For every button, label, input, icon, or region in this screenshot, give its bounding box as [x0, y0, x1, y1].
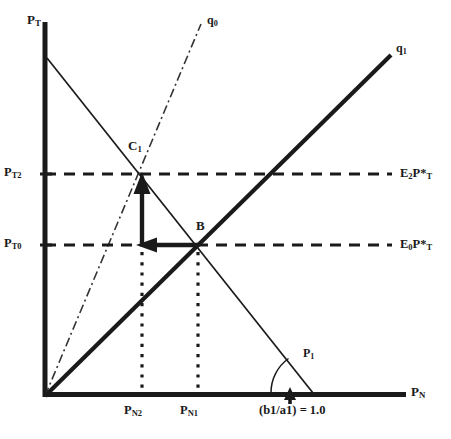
- economics-diagram: PT PN PT2 PT0 PN2 PN1 E2P*T E0P*T q0 q1 …: [0, 0, 451, 439]
- point-label-c1: C1: [128, 139, 142, 154]
- x-tick-label-pn2: PN2: [124, 404, 142, 417]
- x-axis-label: PN: [411, 385, 425, 400]
- point-label-b: B: [196, 219, 205, 232]
- right-label-e2: E2P*T: [400, 167, 432, 180]
- curve-q1: [45, 55, 391, 396]
- arrow-horizontal-head: [136, 238, 157, 253]
- curve-p1: [47, 58, 313, 393]
- slope-annotation: (b1/a1) = 1.0: [259, 404, 326, 417]
- curve-label-q1: q1: [396, 42, 407, 56]
- diagram-canvas: [0, 0, 451, 439]
- angle-arc: [271, 359, 289, 394]
- y-axis-label: PT: [27, 13, 41, 28]
- y-tick-label-pt2: PT2: [4, 166, 22, 179]
- x-tick-label-pn1: PN1: [180, 404, 198, 417]
- curve-label-q0: q0: [207, 14, 218, 28]
- y-tick-label-pt0: PT0: [4, 237, 22, 250]
- right-label-e0: E0P*T: [400, 238, 432, 251]
- curve-label-p1: P1: [303, 347, 314, 361]
- curve-q0: [45, 24, 201, 396]
